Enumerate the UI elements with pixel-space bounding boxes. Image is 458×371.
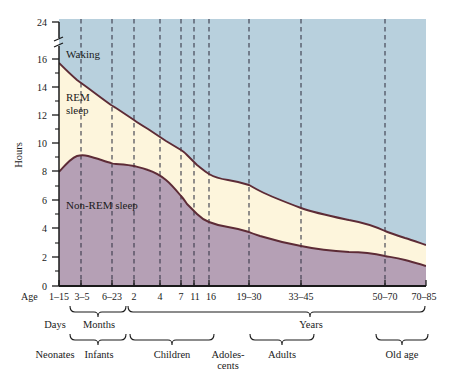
x-axis-age-prefix: Age — [21, 291, 38, 302]
stage-label-rem-sleep-line1: REM — [66, 91, 90, 103]
age-group-label-children: Children — [154, 349, 191, 360]
bracket-old-age — [376, 334, 428, 345]
unit-label-years: Years — [299, 319, 322, 330]
age-group-label-adolescents-line1: Adoles- — [211, 349, 245, 360]
x-tick-label-16-years: 16 — [206, 291, 216, 302]
age-group-label-adults: Adults — [268, 349, 296, 360]
y-tick-label-10: 10 — [37, 138, 47, 149]
stage-label-non-rem-sleep: Non-REM sleep — [66, 199, 138, 211]
plot-area — [59, 19, 426, 286]
unit-label-months: Months — [83, 319, 115, 330]
unit-label-days: Days — [44, 319, 66, 330]
x-tick-label-50-70-years: 50–70 — [373, 291, 398, 302]
stage-label-rem-sleep-line2: sleep — [66, 104, 89, 116]
bracket-years — [128, 306, 425, 317]
age-group-label-old-age: Old age — [386, 349, 419, 360]
bracket-months — [70, 306, 126, 317]
bracket-children — [130, 334, 214, 345]
age-group-label-infants: Infants — [84, 349, 113, 360]
bracket-adults — [250, 334, 314, 345]
y-tick-label-4: 4 — [42, 223, 47, 234]
x-tick-label-7-years: 7 — [179, 291, 184, 302]
x-tick-label-11-years: 11 — [190, 291, 200, 302]
stage-label-waking: Waking — [66, 48, 100, 60]
sleep-stages-chart-figure: 24 16 14 12 10 8 6 4 2 0 Hours Age — [0, 0, 458, 371]
y-tick-label-12: 12 — [37, 110, 47, 121]
y-tick-label-0: 0 — [42, 281, 47, 292]
y-tick-label-8: 8 — [42, 166, 47, 177]
y-tick-label-14: 14 — [37, 82, 47, 93]
x-tick-label-33-45-years: 33–45 — [289, 291, 314, 302]
chart-svg: 24 16 14 12 10 8 6 4 2 0 Hours Age — [0, 0, 458, 371]
x-tick-label-1-15-days: 1–15 — [49, 291, 69, 302]
x-tick-label-4-years: 4 — [158, 291, 163, 302]
y-tick-label-16: 16 — [37, 54, 47, 65]
x-tick-label-2-years: 2 — [132, 291, 137, 302]
y-axis-title: Hours — [13, 142, 24, 168]
age-group-label-adolescents-line2: cents — [217, 360, 239, 371]
y-axis-major-ticks — [52, 22, 59, 286]
bracket-infants — [70, 334, 126, 345]
x-tick-label-6-23-months: 6–23 — [102, 291, 122, 302]
y-tick-label-6: 6 — [42, 195, 47, 206]
x-tick-label-3-5-months: 3–5 — [75, 291, 90, 302]
age-group-label-neonates: Neonates — [35, 349, 74, 360]
y-tick-label-24: 24 — [37, 17, 47, 28]
x-tick-label-19-30-years: 19–30 — [237, 291, 262, 302]
x-tick-label-70-85-years: 70–85 — [412, 291, 437, 302]
y-tick-label-2: 2 — [42, 252, 47, 263]
